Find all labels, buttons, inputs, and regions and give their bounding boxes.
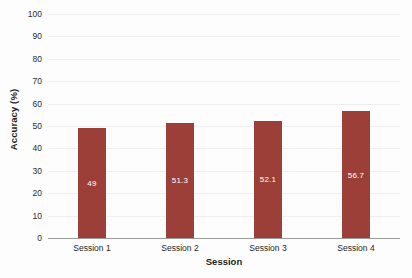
bar[interactable]: 49 [78, 128, 106, 238]
y-axis-tick-label: 100 [28, 9, 42, 19]
y-axis-tick-label: 30 [33, 166, 42, 176]
y-axis-title-label: Accuracy (%) [9, 88, 20, 149]
y-axis-tick-label: 70 [33, 76, 42, 86]
y-axis-tick-label: 0 [37, 233, 42, 243]
y-axis-tick-label: 20 [33, 188, 42, 198]
bar-group: 52.1Session 3 [224, 14, 312, 238]
y-axis-tick-label: 60 [33, 99, 42, 109]
bar-value-label: 52.1 [260, 175, 276, 184]
plot-area: 0102030405060708090100 49Session 151.3Se… [48, 14, 400, 238]
x-axis-title: Session [48, 256, 400, 267]
x-axis-tick-label: Session 1 [73, 243, 110, 253]
bar-value-label: 49 [87, 179, 96, 188]
bar-group: 51.3Session 2 [136, 14, 224, 238]
bar-chart: Accuracy (%) 0102030405060708090100 49Se… [0, 0, 412, 278]
y-axis-tick-label: 40 [33, 143, 42, 153]
bar[interactable]: 51.3 [166, 123, 194, 238]
bar[interactable]: 56.7 [342, 111, 370, 238]
bar-group: 49Session 1 [48, 14, 136, 238]
bar-value-label: 51.3 [172, 176, 188, 185]
bar-value-label: 56.7 [348, 171, 364, 180]
x-axis-tick-label: Session 4 [337, 243, 374, 253]
x-axis-line [48, 238, 400, 239]
y-axis-title: Accuracy (%) [4, 0, 24, 238]
bar[interactable]: 52.1 [254, 121, 282, 238]
y-axis-tick-label: 80 [33, 54, 42, 64]
x-axis-tick-label: Session 2 [161, 243, 198, 253]
bar-group: 56.7Session 4 [312, 14, 400, 238]
y-axis-tick-label: 90 [33, 31, 42, 41]
y-axis-tick-label: 10 [33, 211, 42, 221]
bars-layer: 49Session 151.3Session 252.1Session 356.… [48, 14, 400, 238]
x-axis-tick-label: Session 3 [249, 243, 286, 253]
y-axis-tick-label: 50 [33, 121, 42, 131]
